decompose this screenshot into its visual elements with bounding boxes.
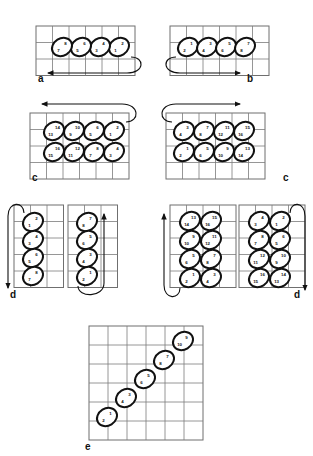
cell-number-bottom: 14: [184, 222, 189, 227]
cell-number-bottom: 11: [253, 260, 258, 265]
cell-number-bottom: 14: [238, 153, 243, 158]
cell-number-top: 10: [75, 125, 80, 130]
cell-number-bottom: 15: [48, 153, 53, 158]
cell-number-top: 12: [75, 146, 80, 151]
panel-e: 12345678910e: [85, 326, 203, 452]
cell-number-bottom: 12: [218, 132, 223, 137]
cell-number-top: 11: [225, 125, 230, 130]
cell-number-bottom: 13: [274, 279, 279, 284]
panel-label-d-4: d: [294, 289, 300, 300]
cell-number-top: 16: [260, 272, 265, 277]
cell-number-top: 13: [191, 215, 196, 220]
cell-number-bottom: 16: [238, 132, 243, 137]
cell-number-bottom: 15: [253, 279, 258, 284]
panel-b: 12345678b: [166, 26, 269, 84]
panel-label-d-1: d: [10, 289, 16, 300]
cell-number-top: 14: [55, 125, 60, 130]
cell-number-bottom: 10: [177, 342, 182, 347]
cell-number-bottom: 10: [218, 153, 223, 158]
panel-d-2: 78563412: [68, 205, 118, 295]
cell-number-bottom: 16: [205, 222, 210, 227]
cell-number-top: 11: [212, 234, 217, 239]
cell-number-top: 14: [281, 272, 286, 277]
cell-number-bottom: 12: [205, 241, 210, 246]
panel-label-c-left: c: [32, 172, 38, 183]
panel-label-e: e: [85, 441, 91, 452]
panel-label-a: a: [38, 73, 44, 84]
cell-number-top: 15: [245, 125, 250, 130]
panel-label-b: b: [247, 73, 253, 84]
panel-c-left: 21651091413438712111615c: [30, 104, 136, 183]
panel-d-4: 43218765121110916151413d: [239, 204, 305, 300]
panel-label-c-right: c: [283, 172, 289, 183]
panel-a: 21436587a: [36, 26, 141, 84]
cell-number-top: 10: [281, 253, 286, 258]
cell-number-top: 15: [212, 215, 217, 220]
panel-d-3: 13141516910111256781234: [164, 205, 236, 297]
figure-canvas: 21436587a12345678b2165109141343871211161…: [0, 0, 313, 456]
panel-c-right: 34781112151612569101314c: [162, 104, 289, 183]
cell-number-bottom: 13: [48, 132, 53, 137]
panel-d-1: 21436587d: [8, 204, 64, 300]
cell-number-top: 16: [55, 146, 60, 151]
cell-number-top: 12: [260, 253, 265, 258]
cell-number-top: 13: [245, 146, 250, 151]
cell-number-bottom: 10: [184, 241, 189, 246]
figure-diagram: 21436587a12345678b2165109141343871211161…: [0, 0, 313, 456]
cell-number-bottom: 11: [68, 153, 73, 158]
